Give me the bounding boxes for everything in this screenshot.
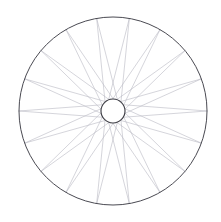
wheel-diagram-canvas [0,0,221,222]
wheel-figure [0,0,221,222]
hub-circle [101,99,125,123]
